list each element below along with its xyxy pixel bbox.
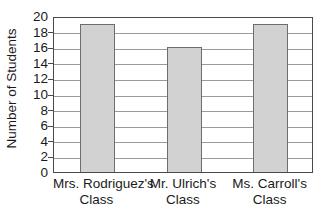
y-axis-tick-mark — [48, 95, 53, 96]
y-axis-tick-label: 18 — [33, 26, 48, 40]
x-axis-category-label: Ms. Carroll'sClass — [226, 176, 313, 208]
x-axis-tick-labels: Mrs. Rodriguez'sClassMr. Ulrich'sClassMs… — [53, 176, 313, 220]
y-axis-tick-label: 16 — [33, 41, 48, 55]
y-axis-tick-label: 6 — [40, 119, 48, 133]
x-axis-category-label: Mr. Ulrich'sClass — [140, 176, 227, 208]
bar-chart: Number of Students 20181614121086420 Mrs… — [0, 0, 327, 222]
y-axis-tick-mark — [48, 79, 53, 80]
x-axis-category-label-line1: Ms. Carroll's — [226, 176, 313, 192]
y-axis-tick-label: 14 — [33, 57, 48, 71]
y-axis-tick-label: 12 — [33, 72, 48, 86]
bar — [80, 24, 115, 172]
x-axis-category-label-line2: Class — [226, 192, 313, 208]
x-axis-category-label-line2: Class — [140, 192, 227, 208]
y-axis-title-text: Number of Students — [4, 28, 19, 148]
y-axis-tick-labels: 20181614121086420 — [22, 0, 51, 222]
y-axis-tick-mark — [48, 126, 53, 127]
x-axis-category-label: Mrs. Rodriguez'sClass — [53, 176, 140, 208]
plot-area — [53, 17, 313, 173]
y-axis-tick-label: 20 — [33, 10, 48, 24]
y-axis-tick-mark — [48, 157, 53, 158]
y-axis-tick-mark — [48, 110, 53, 111]
y-axis-tick-label: 10 — [33, 88, 48, 102]
y-axis-tick-mark — [48, 32, 53, 33]
y-axis-tick-label: 2 — [40, 150, 48, 164]
x-axis-category-label-line2: Class — [53, 192, 140, 208]
y-axis-tick-mark — [48, 48, 53, 49]
x-axis-category-label-line1: Mr. Ulrich's — [140, 176, 227, 192]
y-axis-tick-label: 4 — [40, 135, 48, 149]
y-axis-tick-mark — [48, 63, 53, 64]
y-axis-tick-label: 8 — [40, 104, 48, 118]
y-axis-tick-mark — [48, 141, 53, 142]
y-axis-tick-label: 0 — [40, 166, 48, 180]
y-axis-title: Number of Students — [0, 0, 22, 176]
bar — [167, 47, 202, 172]
bar — [253, 24, 288, 172]
x-axis-category-label-line1: Mrs. Rodriguez's — [53, 176, 140, 192]
